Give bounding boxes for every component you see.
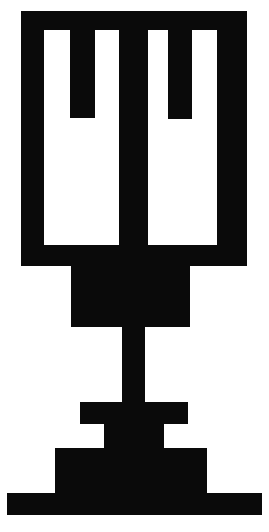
neck-shoulder	[71, 266, 190, 327]
head-top-rail	[21, 11, 247, 30]
base-tier-1-riser	[104, 424, 164, 449]
center-pillar	[119, 11, 148, 266]
head-left-wall	[21, 11, 44, 266]
stem	[122, 327, 145, 403]
head-bottom-rail	[21, 245, 247, 266]
base-tier-2	[55, 448, 207, 494]
symbol-graphic: Candelabra Emblem	[0, 0, 269, 532]
base-tier-3	[7, 493, 262, 515]
head-right-wall	[217, 11, 247, 266]
image-canvas: Candelabra Emblem	[0, 0, 269, 532]
base-tier-1	[80, 402, 188, 424]
